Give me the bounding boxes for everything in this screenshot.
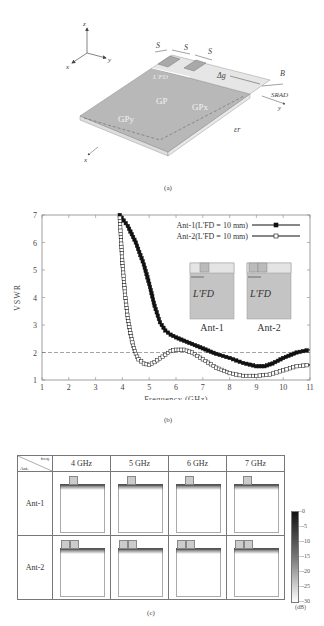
colorbar [291, 511, 299, 603]
dim-s2: S [184, 43, 188, 52]
svg-text:L'FD: L'FD [192, 288, 215, 299]
coordinate-axes [72, 28, 106, 63]
y-axis-label: VSWR [13, 284, 22, 311]
efield-cell [169, 472, 227, 536]
caption-a: (a) [148, 184, 188, 192]
epsilon-r-label: εr [234, 125, 241, 134]
caption-c: (c) [131, 609, 171, 617]
col-header: 5 GHz [111, 456, 169, 472]
col-header: 6 GHz [169, 456, 227, 472]
efield-cell [53, 472, 111, 536]
colorbar-tick-label: –-20 [299, 568, 310, 574]
board-y-label: y [277, 104, 282, 112]
efield-cell [169, 536, 227, 600]
x-tick-label: 2 [67, 383, 71, 392]
svg-text:Ant-1: Ant-1 [200, 322, 223, 333]
inset-ant-2: L'FDAnt-2 [247, 263, 291, 333]
corner-ant-label: Ant. [20, 466, 29, 471]
legend-label: Ant-2(L'FD = 10 mm) [176, 232, 248, 241]
row-header: Ant-2 [18, 536, 53, 600]
efield-cell [111, 472, 169, 536]
dim-s3: S [208, 47, 212, 56]
dim-lfd: L'FD [152, 73, 168, 81]
corner-cell: freq. Ant. [18, 456, 53, 472]
colorbar-tick-label: –0 [299, 508, 305, 514]
gpx-label: GPx [192, 102, 209, 112]
svg-text:L'FD: L'FD [249, 288, 272, 299]
legend-label: Ant-1(L'FD = 10 mm) [176, 221, 248, 230]
y-tick-label: 7 [33, 211, 37, 220]
efield-cell [227, 536, 285, 600]
caption-b: (b) [148, 416, 188, 424]
x-tick-label: 11 [306, 383, 314, 392]
x-tick-label: 10 [279, 383, 287, 392]
efield-cell [53, 536, 111, 600]
x-tick-label: 9 [254, 383, 258, 392]
board-x-label: x [83, 156, 88, 164]
colorbar-tick-label: –-10 [299, 538, 310, 544]
y-tick-label: 4 [33, 294, 37, 303]
vswr-chart: 12345678910111234567Frequency (GHz)VSWRL… [0, 205, 324, 400]
axis-y-label: y [107, 56, 112, 64]
svg-text:Ant-2: Ant-2 [257, 322, 280, 333]
x-tick-label: 8 [228, 383, 232, 392]
x-tick-label: 6 [174, 383, 178, 392]
x-tick-label: 5 [147, 383, 151, 392]
dim-b: B [280, 69, 285, 78]
axis-z-label: z [82, 20, 86, 28]
antenna-geometry-diagram: z y x S S S L'FD Δg B SRAD y GP GPx GPy … [0, 0, 324, 200]
colorbar-tick-label: –-25 [299, 583, 310, 589]
row-header: Ant-1 [18, 472, 53, 536]
x-tick-label: 4 [120, 383, 124, 392]
efield-distribution-table: freq. Ant. 4 GHz 5 GHz 6 GHz 7 GHz Ant-1… [17, 455, 285, 600]
x-tick-label: 3 [94, 383, 98, 392]
colorbar-unit: (dB) [295, 604, 306, 610]
dim-delta-g: Δg [216, 71, 226, 80]
colorbar-tick-label: –-15 [299, 553, 310, 559]
axis-x-label: x [65, 63, 70, 71]
dim-s1: S [156, 41, 160, 50]
colorbar-ticks: –0–-5–-10–-15–-20–-25–-30 [299, 508, 324, 608]
y-tick-label: 3 [33, 321, 37, 330]
efield-cell [111, 536, 169, 600]
x-tick-label: 7 [201, 383, 205, 392]
gp-label: GP [156, 96, 168, 106]
x-axis-label: Frequency (GHz) [144, 395, 208, 400]
efield-cell [227, 472, 285, 536]
y-tick-label: 2 [33, 349, 37, 358]
y-tick-label: 1 [33, 376, 37, 385]
gpy-label: GPy [118, 114, 135, 124]
y-tick-label: 5 [33, 266, 37, 275]
dim-srad: SRAD [271, 91, 288, 99]
col-header: 4 GHz [53, 456, 111, 472]
y-tick-label: 6 [33, 239, 37, 248]
inset-ant-1: L'FDAnt-1 [190, 263, 234, 333]
x-tick-label: 1 [40, 383, 44, 392]
corner-freq-label: freq. [41, 456, 50, 461]
col-header: 7 GHz [227, 456, 285, 472]
colorbar-tick-label: –-5 [299, 523, 307, 529]
